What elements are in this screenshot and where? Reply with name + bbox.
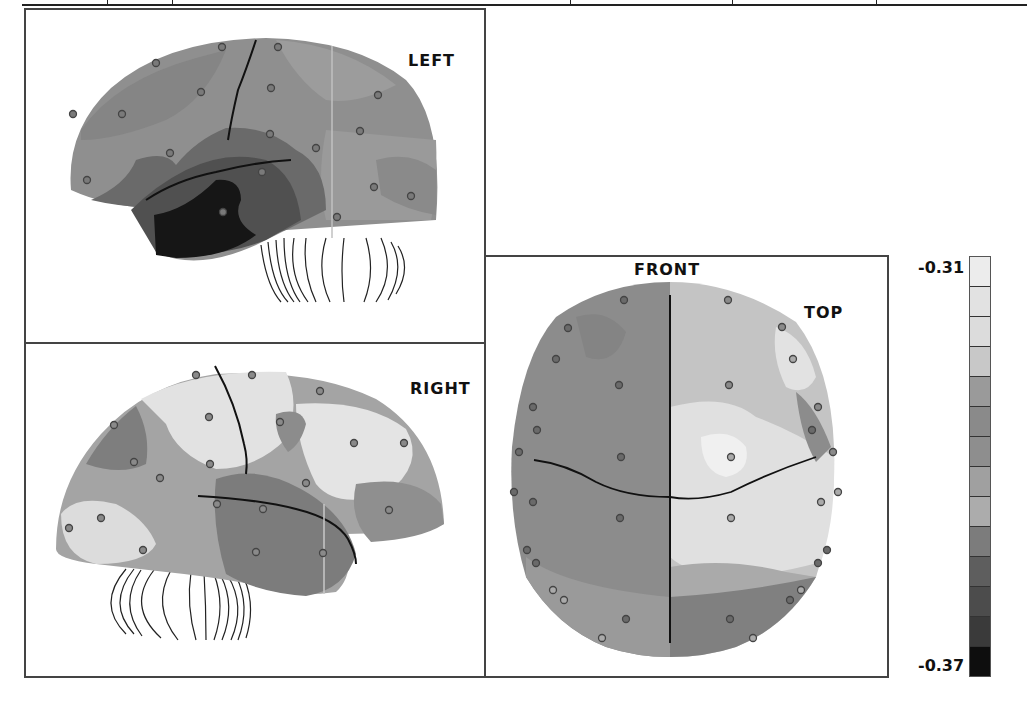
colorbar-swatch [970,647,990,676]
colorbar-swatch [970,287,990,317]
cerebellum-outline [261,238,405,302]
orientation-label-front: FRONT [634,260,700,279]
colorbar-swatch [970,317,990,347]
table-divider [876,0,877,4]
colorbar-swatch [970,437,990,467]
panel-right-view: RIGHT [24,342,486,678]
table-divider [172,0,173,4]
colorbar-swatch [970,587,990,617]
colorbar [969,256,991,677]
panel-left-view: LEFT [24,8,486,344]
colorbar-swatch [970,497,990,527]
view-label-top: TOP [804,303,843,322]
table-divider [107,0,108,4]
colorbar-swatch [970,617,990,647]
colorbar-swatch [970,557,990,587]
colorbar-swatch [970,407,990,437]
colorbar-swatch [970,377,990,407]
table-divider [732,0,733,4]
colorbar-swatch [970,347,990,377]
colorbar-min-label: -0.37 [918,656,964,675]
colorbar-swatch [970,467,990,497]
view-label-right: RIGHT [410,379,471,398]
panel-top-view: FRONT TOP [484,255,889,678]
table-divider [570,0,571,4]
colorbar-max-label: -0.31 [918,258,964,277]
view-label-left: LEFT [408,51,455,70]
top-table-border [22,0,1027,6]
colorbar-swatch [970,257,990,287]
colorbar-swatch [970,527,990,557]
map-region [86,406,147,470]
